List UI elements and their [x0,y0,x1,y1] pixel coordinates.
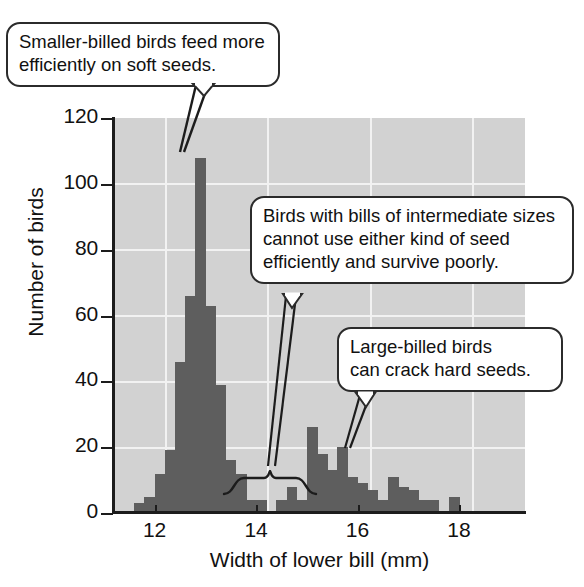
callout-tails [0,0,584,587]
bill-width-histogram-figure: 020406080100120 12141618 Width of lower … [0,0,584,587]
